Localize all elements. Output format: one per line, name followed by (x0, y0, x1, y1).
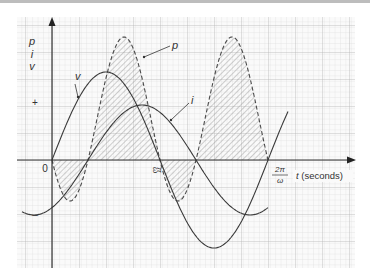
tick-pi-over-omega-den: ω (151, 167, 160, 173)
svg-text:ω: ω (277, 176, 283, 185)
positive-sign-label: + (32, 97, 38, 108)
power-voltage-current-diagram: p i v + – 0 π ω 2π ω t (seconds) v p i (0, 0, 370, 280)
negative-sign-label: – (32, 209, 38, 220)
x-axis-label: t (seconds) (293, 170, 353, 182)
svg-text:p: p (171, 39, 178, 51)
graph-paper-grid (17, 17, 355, 268)
svg-text:t (seconds): t (seconds) (296, 170, 343, 181)
svg-text:ω: ω (151, 167, 160, 173)
origin-label: 0 (42, 163, 48, 174)
svg-text:2π: 2π (274, 165, 285, 174)
svg-text:p: p (28, 35, 35, 47)
